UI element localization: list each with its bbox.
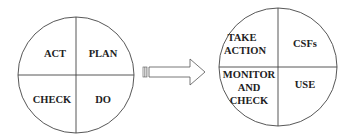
label-check: CHECK [33, 94, 72, 105]
transition-arrow [143, 59, 205, 85]
label-take: TAKE [228, 32, 257, 43]
label-and: AND [238, 82, 261, 93]
label-act: ACT [44, 48, 66, 59]
label-check-right: CHECK [230, 95, 269, 106]
pdca-to-csf-diagram: ACT PLAN CHECK DO TAKE ACTION CSFs MONIT… [0, 0, 352, 140]
label-do: DO [95, 94, 111, 105]
right-csf-circle: TAKE ACTION CSFs MONITOR AND CHECK USE [219, 8, 337, 126]
label-action: ACTION [224, 45, 266, 56]
left-pdca-circle: ACT PLAN CHECK DO [18, 17, 134, 133]
label-monitor: MONITOR [223, 69, 276, 80]
label-use: USE [295, 79, 315, 90]
label-csfs: CSFs [293, 38, 317, 49]
label-plan: PLAN [89, 48, 118, 59]
